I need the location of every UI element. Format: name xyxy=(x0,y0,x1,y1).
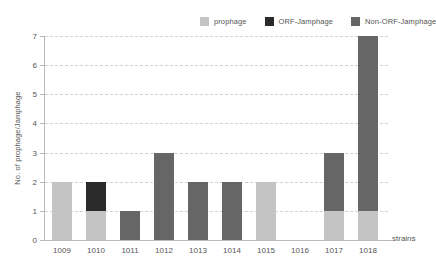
bar-group[interactable] xyxy=(256,182,276,240)
legend-swatch-prophage xyxy=(200,17,209,26)
bar-segment[interactable] xyxy=(86,211,106,240)
bar-segment[interactable] xyxy=(52,182,72,240)
x-tick-label: 1016 xyxy=(291,246,309,255)
x-tick-label: 1018 xyxy=(359,246,377,255)
legend-item: Non-ORF-Jamphage xyxy=(351,17,436,26)
x-tick-label: 1017 xyxy=(325,246,343,255)
legend-item-label: Non-ORF-Jamphage xyxy=(365,17,436,26)
y-tick-label: 0 xyxy=(33,236,37,245)
legend-item: ORF-Jamphage xyxy=(265,17,334,26)
bar-group[interactable] xyxy=(154,153,174,240)
bar-segment[interactable] xyxy=(120,211,140,240)
chart-legend: prophageORF-JamphageNon-ORF-Jamphage xyxy=(200,13,432,29)
y-tick-mark xyxy=(40,182,44,183)
legend-swatch-orf-jamphage xyxy=(265,17,274,26)
x-tick-label: 1010 xyxy=(87,246,105,255)
x-tick-label: 1015 xyxy=(257,246,275,255)
bar-segment[interactable] xyxy=(358,36,378,211)
y-tick-mark xyxy=(40,123,44,124)
bar-segment[interactable] xyxy=(256,182,276,240)
x-tick-label: 1012 xyxy=(155,246,173,255)
y-tick-mark xyxy=(40,240,44,241)
y-axis-title-wrapper: No. of prophage/Jamphage xyxy=(13,36,14,240)
y-axis-title: No. of prophage/Jamphage xyxy=(13,91,22,184)
x-tick-label: 1014 xyxy=(223,246,241,255)
y-tick-mark xyxy=(40,94,44,95)
y-tick-label: 3 xyxy=(33,148,37,157)
bar-segment[interactable] xyxy=(358,211,378,240)
legend-item-label: ORF-Jamphage xyxy=(279,17,334,26)
bar-group[interactable] xyxy=(86,182,106,240)
x-tick-label: 1013 xyxy=(189,246,207,255)
legend-swatch-non-orf-jamphage xyxy=(351,17,360,26)
legend-item-label: prophage xyxy=(214,17,247,26)
bar-group[interactable] xyxy=(188,182,208,240)
y-tick-label: 2 xyxy=(33,177,37,186)
bar-group[interactable] xyxy=(222,182,242,240)
y-tick-mark xyxy=(40,65,44,66)
bar-group[interactable] xyxy=(324,153,344,240)
bar-group[interactable] xyxy=(358,36,378,240)
x-tick-label: 1011 xyxy=(121,246,138,255)
bar-segment[interactable] xyxy=(324,153,344,211)
y-tick-mark xyxy=(40,211,44,212)
y-tick-label: 1 xyxy=(33,206,37,215)
legend-item: prophage xyxy=(200,17,247,26)
bar-segment[interactable] xyxy=(154,153,174,240)
bar-segment[interactable] xyxy=(86,182,106,211)
x-axis-title: strains xyxy=(392,234,416,243)
plot-area: 01234567 xyxy=(44,36,388,240)
bar-segment[interactable] xyxy=(324,211,344,240)
x-tick-label: 1009 xyxy=(53,246,71,255)
y-tick-label: 4 xyxy=(33,119,37,128)
bar-segment[interactable] xyxy=(188,182,208,240)
y-tick-mark xyxy=(40,153,44,154)
bar-group[interactable] xyxy=(52,182,72,240)
y-tick-label: 7 xyxy=(33,32,37,41)
y-tick-mark xyxy=(40,36,44,37)
bar-series-container xyxy=(45,36,388,240)
bar-group[interactable] xyxy=(120,211,140,240)
x-axis-line xyxy=(44,240,392,241)
y-tick-label: 5 xyxy=(33,90,37,99)
bar-segment[interactable] xyxy=(222,182,242,240)
y-tick-label: 6 xyxy=(33,61,37,70)
